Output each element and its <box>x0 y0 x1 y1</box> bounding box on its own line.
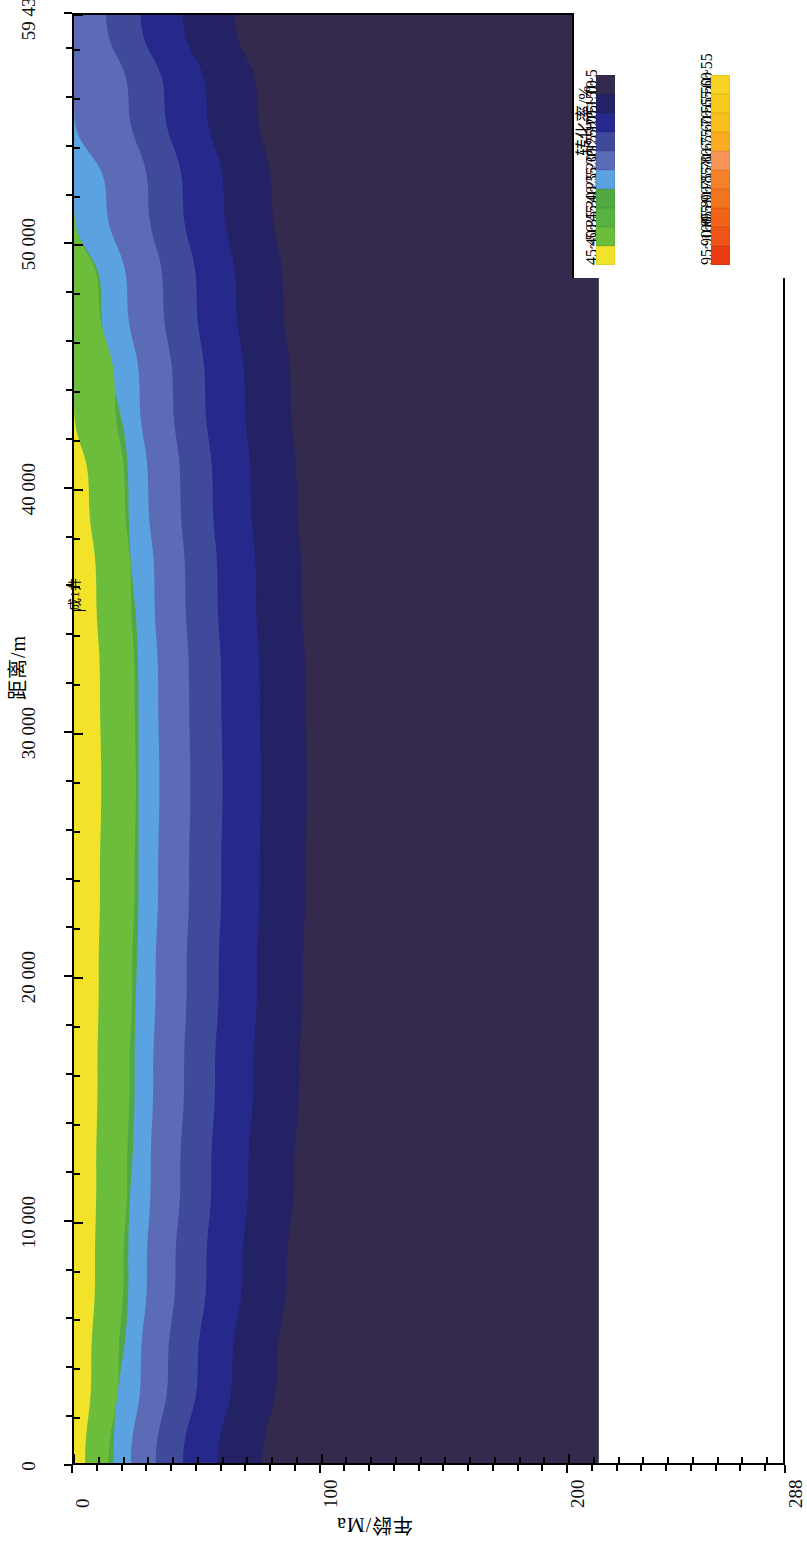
well-label: 成1井 <box>64 578 83 611</box>
x-tick-inner <box>741 1457 743 1463</box>
y-tick-major <box>64 242 72 244</box>
y-tick-inner <box>74 635 80 637</box>
legend-swatch <box>711 170 730 189</box>
legend-swatch <box>596 151 615 170</box>
y-tick-minor <box>66 780 72 782</box>
y-tick-label: 50 000 <box>18 214 40 274</box>
y-tick-label: 59 430 <box>18 0 40 44</box>
x-tick-inner <box>395 1457 397 1463</box>
y-tick-inner-major <box>74 14 83 16</box>
x-tick-inner <box>246 1457 248 1463</box>
y-axis-title: 距离/m <box>2 635 31 700</box>
legend-swatch <box>711 113 730 132</box>
x-tick-inner <box>642 1457 644 1463</box>
legend-swatch <box>711 246 730 265</box>
y-tick-inner <box>74 293 80 295</box>
x-tick-inner <box>444 1457 446 1463</box>
x-tick-minor <box>220 1465 222 1471</box>
x-tick-inner <box>618 1457 620 1463</box>
x-tick-minor <box>541 1465 543 1471</box>
legend-swatch <box>711 94 730 113</box>
x-tick-inner <box>667 1457 669 1463</box>
x-tick-minor <box>715 1465 717 1471</box>
x-tick-inner <box>766 1457 768 1463</box>
x-tick-minor <box>269 1465 271 1471</box>
x-tick-inner <box>271 1457 273 1463</box>
x-tick-minor <box>294 1465 296 1471</box>
y-tick-minor <box>66 47 72 49</box>
legend-swatch <box>596 208 615 227</box>
y-tick-inner <box>74 684 80 686</box>
y-tick-inner <box>74 1368 80 1370</box>
y-tick-inner-major <box>74 244 83 246</box>
y-tick-major <box>64 487 72 489</box>
x-tick-inner <box>593 1457 595 1463</box>
y-tick-minor <box>66 1317 72 1319</box>
y-tick-inner <box>74 342 80 344</box>
legend-swatch <box>596 227 615 246</box>
x-tick-minor <box>467 1465 469 1471</box>
y-tick-minor <box>66 438 72 440</box>
x-tick-minor <box>591 1465 593 1471</box>
y-tick-inner <box>74 1319 80 1321</box>
x-tick-minor <box>665 1465 667 1471</box>
x-tick-inner <box>519 1457 521 1463</box>
y-tick-inner <box>74 147 80 149</box>
y-tick-minor <box>66 878 72 880</box>
x-tick-minor <box>195 1465 197 1471</box>
x-tick-inner <box>123 1457 125 1463</box>
y-tick-label: 0 <box>18 1436 40 1496</box>
x-tick-inner <box>147 1457 149 1463</box>
x-tick-inner <box>692 1457 694 1463</box>
x-tick-minor <box>640 1465 642 1471</box>
y-tick-inner <box>74 928 80 930</box>
y-tick-minor <box>66 1171 72 1173</box>
x-tick-label: 100 <box>320 1448 342 1508</box>
y-tick-inner-major <box>74 977 83 979</box>
x-tick-inner <box>345 1457 347 1463</box>
legend-swatch <box>711 208 730 227</box>
x-tick-inner <box>717 1457 719 1463</box>
x-tick-minor <box>170 1465 172 1471</box>
x-tick-minor <box>145 1465 147 1471</box>
x-tick-minor <box>616 1465 618 1471</box>
y-tick-label: 20 000 <box>18 947 40 1007</box>
x-tick-inner <box>420 1457 422 1463</box>
y-tick-inner <box>74 1075 80 1077</box>
x-tick-minor <box>418 1465 420 1471</box>
y-tick-inner <box>74 880 80 882</box>
x-tick-inner <box>172 1457 174 1463</box>
legend-swatch-strip <box>596 75 615 265</box>
legend-swatch <box>711 227 730 246</box>
y-tick-inner <box>74 1271 80 1273</box>
legend-swatch <box>596 189 615 208</box>
y-tick-inner <box>74 1124 80 1126</box>
y-tick-inner <box>74 196 80 198</box>
y-tick-minor <box>66 340 72 342</box>
x-tick-minor <box>442 1465 444 1471</box>
y-tick-minor <box>66 291 72 293</box>
x-tick-inner <box>222 1457 224 1463</box>
x-tick-inner <box>494 1457 496 1463</box>
y-tick-major <box>64 731 72 733</box>
legend-swatch <box>596 170 615 189</box>
x-tick-label: 200 <box>567 1448 589 1508</box>
y-tick-inner <box>74 391 80 393</box>
legend-swatch <box>711 151 730 170</box>
legend-swatch <box>596 246 615 265</box>
x-tick-minor <box>393 1465 395 1471</box>
y-tick-inner <box>74 440 80 442</box>
x-tick-label: 0 <box>72 1448 94 1508</box>
y-tick-major <box>64 975 72 977</box>
y-tick-major <box>64 1220 72 1222</box>
legend-swatch <box>711 132 730 151</box>
y-tick-minor <box>66 1269 72 1271</box>
x-tick-inner <box>469 1457 471 1463</box>
x-tick-minor <box>244 1465 246 1471</box>
x-tick-inner <box>370 1457 372 1463</box>
y-tick-inner <box>74 1417 80 1419</box>
legend: 转化率/% 0~55~1010~1515~2020~2525~3030~3535… <box>572 13 785 278</box>
y-tick-minor <box>66 633 72 635</box>
y-tick-minor <box>66 145 72 147</box>
